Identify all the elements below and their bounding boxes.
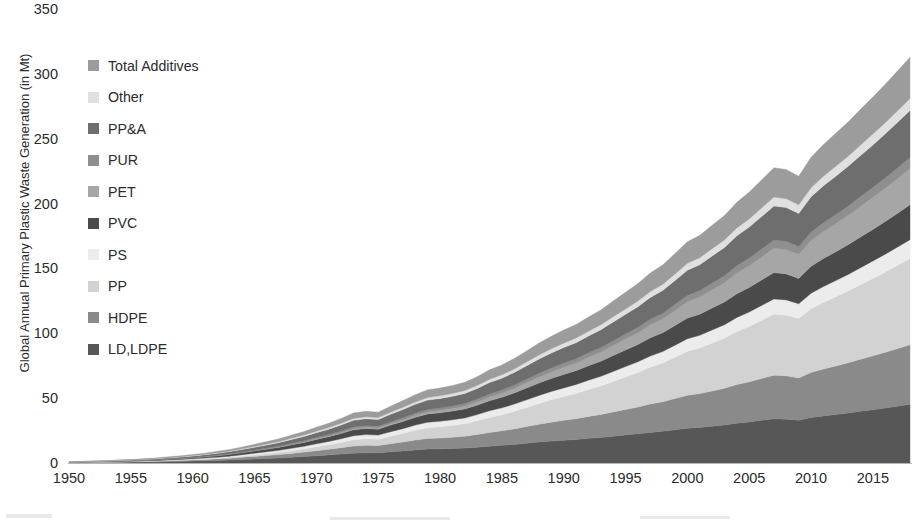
- legend-swatch-icon: [88, 186, 99, 197]
- x-tick-2010: 2010: [795, 470, 827, 486]
- legend-item-pet[interactable]: PET: [88, 176, 268, 208]
- legend-item-label: PET: [108, 185, 136, 199]
- x-tick-1960: 1960: [177, 470, 209, 486]
- y-tick-200: 200: [34, 196, 58, 212]
- chart-legend: Total AdditivesOtherPP&APURPETPVCPSPPHDP…: [88, 50, 268, 365]
- legend-swatch-icon: [88, 312, 99, 323]
- legend-item-pp-a[interactable]: PP&A: [88, 113, 268, 145]
- x-tick-1965: 1965: [238, 470, 270, 486]
- legend-item-label: Total Additives: [108, 59, 199, 73]
- x-tick-2015: 2015: [857, 470, 889, 486]
- y-axis-tick-labels: 050100150200250300350: [0, 0, 66, 470]
- y-tick-100: 100: [34, 325, 58, 341]
- scan-artifact-mid: [330, 517, 450, 520]
- y-tick-0: 0: [50, 455, 58, 471]
- y-tick-150: 150: [34, 260, 58, 276]
- x-tick-1985: 1985: [486, 470, 518, 486]
- y-tick-300: 300: [34, 66, 58, 82]
- legend-swatch-icon: [88, 281, 99, 292]
- legend-item-label: PS: [108, 248, 127, 262]
- y-tick-50: 50: [42, 390, 58, 406]
- scan-artifact-right: [640, 516, 730, 519]
- x-tick-1995: 1995: [609, 470, 641, 486]
- legend-swatch-icon: [88, 249, 99, 260]
- legend-item-total-additives[interactable]: Total Additives: [88, 50, 268, 82]
- legend-item-label: LD,LDPE: [108, 342, 167, 356]
- x-tick-1955: 1955: [115, 470, 147, 486]
- legend-swatch-icon: [88, 155, 99, 166]
- legend-swatch-icon: [88, 60, 99, 71]
- plastic-waste-stacked-area-figure: Global Annual Primary Plastic Waste Gene…: [0, 0, 914, 525]
- legend-item-hdpe[interactable]: HDPE: [88, 302, 268, 334]
- legend-swatch-icon: [88, 344, 99, 355]
- legend-item-label: PUR: [108, 153, 138, 167]
- legend-item-label: HDPE: [108, 311, 147, 325]
- x-tick-1990: 1990: [548, 470, 580, 486]
- legend-item-label: PVC: [108, 216, 137, 230]
- x-tick-1980: 1980: [424, 470, 456, 486]
- x-tick-2000: 2000: [671, 470, 703, 486]
- legend-item-ps[interactable]: PS: [88, 239, 268, 271]
- legend-item-ld-ldpe[interactable]: LD,LDPE: [88, 334, 268, 366]
- legend-item-other[interactable]: Other: [88, 82, 268, 114]
- legend-swatch-icon: [88, 92, 99, 103]
- x-axis-tick-labels: 1950195519601965197019751980198519901995…: [0, 470, 914, 498]
- legend-swatch-icon: [88, 123, 99, 134]
- legend-item-label: PP&A: [108, 122, 146, 136]
- legend-item-label: Other: [108, 90, 143, 104]
- y-tick-250: 250: [34, 131, 58, 147]
- x-tick-1975: 1975: [362, 470, 394, 486]
- scan-artifact-left: [6, 514, 52, 518]
- legend-swatch-icon: [88, 218, 99, 229]
- x-tick-1950: 1950: [53, 470, 85, 486]
- x-tick-2005: 2005: [733, 470, 765, 486]
- y-tick-350: 350: [34, 1, 58, 17]
- legend-item-pvc[interactable]: PVC: [88, 208, 268, 240]
- x-tick-1970: 1970: [300, 470, 332, 486]
- legend-item-pp[interactable]: PP: [88, 271, 268, 303]
- x-axis-line: [68, 463, 912, 464]
- legend-item-label: PP: [108, 279, 127, 293]
- legend-item-pur[interactable]: PUR: [88, 145, 268, 177]
